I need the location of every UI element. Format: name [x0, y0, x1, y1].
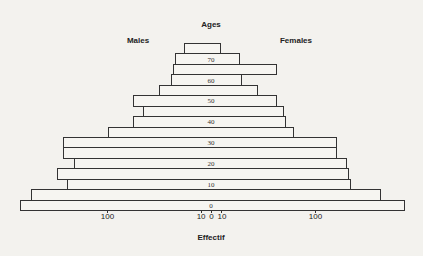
population-pyramid-chart: Ages Males Females 706050403020100 10010…: [0, 0, 423, 256]
age-tick-label: 10: [208, 181, 215, 189]
y-axis-title: Ages: [201, 20, 221, 29]
x-tick-label: 100: [101, 212, 114, 221]
x-tick-label: 0: [209, 212, 213, 221]
x-tick-label: 10: [217, 212, 226, 221]
females-label: Females: [280, 36, 312, 45]
x-tick-label: 10: [197, 212, 206, 221]
x-axis-title: Effectif: [197, 233, 224, 242]
age-tick-label: 40: [208, 118, 215, 126]
males-label: Males: [127, 36, 149, 45]
age-tick-label: 70: [208, 56, 215, 64]
age-tick-label: 50: [208, 97, 215, 105]
age-tick-label: 20: [208, 160, 215, 168]
age-tick-label: 60: [208, 77, 215, 85]
age-tick-label: 0: [209, 202, 213, 210]
x-tick-label: 100: [309, 212, 322, 221]
age-tick-label: 30: [208, 139, 215, 147]
